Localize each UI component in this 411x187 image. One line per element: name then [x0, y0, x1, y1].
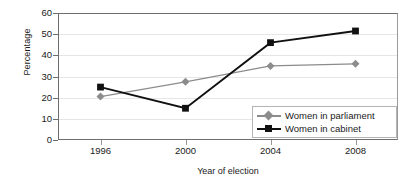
- square-marker-icon: [267, 39, 274, 46]
- diamond-marker-icon: [182, 78, 190, 86]
- y-axis-tick-mark: [53, 13, 58, 14]
- y-axis-tick-mark: [53, 140, 58, 141]
- y-axis-tick-label: 0: [12, 135, 52, 145]
- y-axis-tick-label: 60: [12, 8, 52, 18]
- y-axis-tick-label: 20: [12, 93, 52, 103]
- y-axis-tick-label: 30: [12, 72, 52, 82]
- x-axis-tick-label: 2008: [326, 145, 386, 156]
- legend-label: Women in parliament: [282, 110, 375, 121]
- legend-label: Women in cabinet: [282, 123, 361, 134]
- y-axis-tick-label: 40: [12, 50, 52, 60]
- diamond-marker-icon: [352, 60, 360, 68]
- y-axis-tick-mark: [53, 98, 58, 99]
- square-marker-icon: [352, 28, 359, 35]
- square-marker-icon: [97, 84, 104, 91]
- square-marker-icon: [256, 123, 282, 135]
- series-line: [101, 64, 356, 97]
- legend-item-women-in-cabinet[interactable]: Women in cabinet: [256, 122, 393, 135]
- y-axis-tick-labels: 6050403020100: [12, 0, 52, 187]
- x-axis-tick-label: 2004: [241, 145, 301, 156]
- diamond-marker-icon: [97, 93, 105, 101]
- y-axis-tick-mark: [53, 119, 58, 120]
- y-axis-tick-label: 50: [12, 29, 52, 39]
- x-axis-tick-label: 1996: [71, 145, 131, 156]
- x-axis-tick-label: 2000: [156, 145, 216, 156]
- y-axis-tick-mark: [53, 55, 58, 56]
- square-marker-icon: [182, 105, 189, 112]
- diamond-marker-icon: [267, 62, 275, 70]
- x-axis-title: Year of election: [58, 166, 398, 176]
- diamond-marker-icon: [256, 110, 282, 122]
- y-axis-tick-label: 10: [12, 114, 52, 124]
- legend-item-women-in-parliament[interactable]: Women in parliament: [256, 109, 393, 122]
- chart-legend: Women in parliament Women in cabinet: [252, 106, 397, 138]
- y-axis-tick-mark: [53, 34, 58, 35]
- line-chart: Percentage 6050403020100 Year of electio…: [0, 0, 411, 187]
- y-axis-tick-mark: [53, 77, 58, 78]
- series-line: [101, 31, 356, 108]
